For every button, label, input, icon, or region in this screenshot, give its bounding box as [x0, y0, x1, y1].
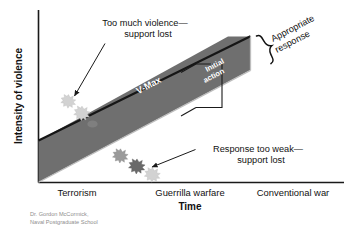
- response-too-weak-leader: [152, 150, 196, 168]
- response-too-weak-line1: Response too weak—: [213, 144, 304, 154]
- burst-icon: [144, 168, 160, 182]
- too-much-violence-line2: support lost: [124, 29, 172, 39]
- burst-smudge-icon: [87, 120, 97, 127]
- x-axis-category-terrorism: Terrorism: [57, 187, 96, 198]
- burst-icon: [113, 149, 129, 163]
- y-axis-title: Intensity of violence: [13, 47, 24, 144]
- burst-icon: [129, 159, 146, 174]
- response-too-weak-line2: support lost: [237, 155, 285, 165]
- x-axis-category-conventional-war: Conventional war: [257, 187, 329, 198]
- violence-intensity-diagram: V-Max V-Min Initial action Appropriate r…: [0, 0, 349, 238]
- too-much-violence-line1: Too much violence—: [102, 18, 188, 28]
- too-much-violence-leader: [75, 44, 106, 97]
- figure-canvas: V-Max V-Min Initial action Appropriate r…: [0, 0, 349, 238]
- x-axis-title: Time: [178, 201, 202, 212]
- burst-marker-group-below: [113, 149, 161, 182]
- x-axis-category-guerrilla-warfare: Guerrilla warfare: [155, 187, 224, 198]
- v-min-label: V-Min: [147, 128, 174, 148]
- credit-line-1: Dr. Gordon McCormick,: [30, 211, 89, 217]
- credit-line-2: Naval Postgraduate School: [30, 219, 98, 225]
- burst-icon: [61, 95, 76, 109]
